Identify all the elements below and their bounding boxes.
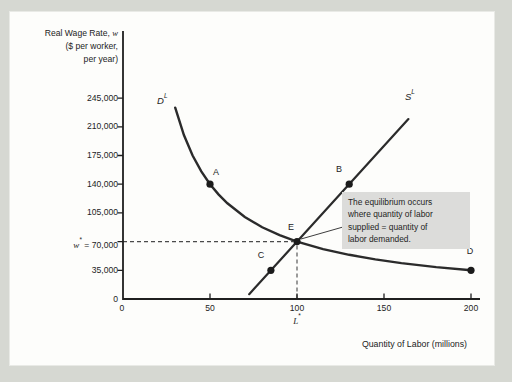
annotation-line1: The equilibrium occurs	[348, 196, 464, 208]
point-c-dot	[267, 267, 274, 274]
wage-variable: w	[112, 28, 118, 38]
point-d-dot	[467, 267, 474, 274]
axes-lines	[123, 31, 480, 299]
annotation-line3: supplied = quantity of	[348, 221, 464, 233]
supply-curve-label: SL	[405, 90, 415, 102]
point-e-dot	[293, 238, 300, 245]
demand-curve-label: DL	[157, 94, 168, 106]
x-tick-150: 150	[377, 303, 391, 314]
y-tick-105000: 105,000	[87, 207, 118, 218]
y-tick-0: 0	[113, 294, 118, 305]
point-c-label: C	[258, 250, 265, 260]
x-tick-50: 50	[205, 303, 215, 314]
x-tick-0: 0	[120, 303, 125, 314]
equilibrium-annotation-box: The equilibrium occurs where quantity of…	[342, 192, 470, 249]
figure-stage: Real Wage Rate, w ($ per worker, per yea…	[0, 0, 512, 382]
y-axis-title: Real Wage Rate, w ($ per worker, per yea…	[45, 27, 118, 66]
point-b-dot	[346, 181, 353, 188]
y-axis-title-line2: ($ per worker,	[45, 40, 118, 53]
point-e-label: E	[288, 222, 294, 232]
y-tick-210000: 210,000	[87, 121, 118, 132]
y-tick-245000: 245,000	[87, 93, 118, 104]
y-tick-175000: 175,000	[87, 150, 118, 161]
point-b-label: B	[336, 164, 342, 174]
y-axis-title-line3: per year)	[45, 53, 118, 66]
y-axis-title-line1: Real Wage Rate, w	[45, 27, 118, 40]
point-a-dot	[206, 181, 213, 188]
y-tick-140000: 140,000	[87, 179, 118, 190]
y-tick-equilibrium-wage: w* = 70,000	[73, 236, 118, 251]
y-tick-35000: 35,000	[92, 265, 118, 276]
x-tick-200: 200	[464, 303, 478, 314]
x-tick-equilibrium-labor: L*	[293, 314, 301, 326]
x-tick-100: 100	[290, 303, 304, 314]
x-axis-title: Quantity of Labor (millions)	[362, 339, 467, 349]
annotation-line4: labor demanded.	[348, 233, 464, 245]
point-a-label: A	[213, 167, 219, 177]
annotation-line2: where quantity of labor	[348, 208, 464, 220]
